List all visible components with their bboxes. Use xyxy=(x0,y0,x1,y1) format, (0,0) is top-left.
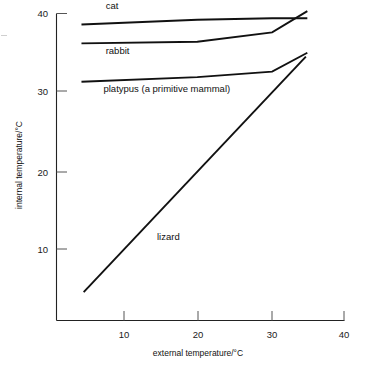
y-tick-label-30: 30 xyxy=(37,86,48,97)
series-line-platypus xyxy=(81,53,307,82)
y-axis-ticks xyxy=(57,14,68,250)
lizard-label: lizard xyxy=(157,231,180,242)
line-chart-plot: 40 30 20 10 10 20 30 40 external tempera… xyxy=(0,0,365,365)
x-axis-ticks xyxy=(124,311,344,321)
x-tick-label-20: 20 xyxy=(193,329,204,340)
series-line-cat xyxy=(81,18,307,24)
chart-container: 40 30 20 10 10 20 30 40 external tempera… xyxy=(0,0,365,365)
series-line-rabbit xyxy=(81,11,307,43)
x-tick-label-30: 30 xyxy=(267,329,278,340)
x-tick-label-40: 40 xyxy=(339,329,350,340)
rabbit-label: rabbit xyxy=(106,45,130,56)
y-tick-label-10: 10 xyxy=(37,244,48,255)
cat-label: cat xyxy=(106,0,119,11)
x-axis-title: external temperature/°C xyxy=(153,348,243,358)
x-tick-label-10: 10 xyxy=(119,329,130,340)
platypus-label: platypus (a primitive mammal) xyxy=(103,83,230,94)
y-axis-title: internal temperature/°C xyxy=(14,121,24,209)
y-tick-label-40: 40 xyxy=(37,8,48,19)
y-tick-label-20: 20 xyxy=(37,167,48,178)
